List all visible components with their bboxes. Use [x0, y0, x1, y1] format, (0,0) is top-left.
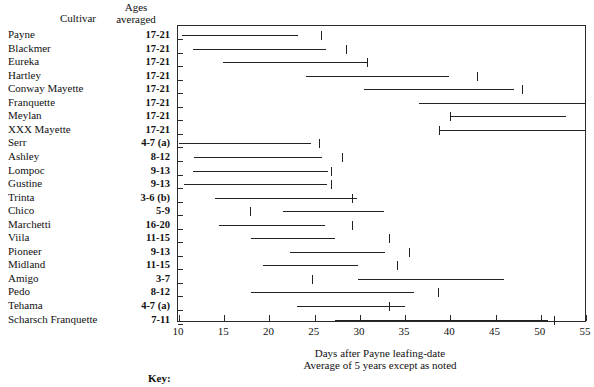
- range-bar: [419, 103, 585, 104]
- range-bar: [193, 171, 329, 172]
- y-axis-tick: [178, 215, 183, 216]
- row-label-ages: 16-20: [106, 219, 170, 230]
- x-axis-tick-label: 20: [253, 325, 283, 337]
- range-mark: [439, 126, 440, 135]
- range-mark: [585, 99, 586, 108]
- range-bar: [306, 76, 450, 77]
- range-bar: [335, 320, 548, 321]
- row-label-ages: 17-21: [106, 29, 170, 40]
- row-label-ages: 11-15: [106, 232, 170, 243]
- y-axis-tick: [178, 147, 183, 148]
- range-mark: [319, 139, 320, 148]
- x-axis-tick-label: 50: [525, 325, 555, 337]
- range-bar: [223, 62, 367, 63]
- y-axis-tick: [178, 161, 183, 162]
- range-mark: [346, 45, 347, 54]
- range-bar: [439, 130, 586, 131]
- range-mark: [352, 194, 353, 203]
- range-bar: [290, 252, 385, 253]
- range-bar: [182, 35, 299, 36]
- range-bar: [364, 89, 513, 90]
- range-bar: [179, 143, 311, 144]
- range-mark: [342, 153, 343, 162]
- row-label-ages: 4-7 (a): [106, 137, 170, 148]
- y-axis-tick: [178, 107, 183, 108]
- row-label-ages: 9-13: [106, 246, 170, 257]
- range-mark: [321, 31, 322, 40]
- row-label-ages: 17-21: [106, 43, 170, 54]
- y-axis-tick: [178, 269, 183, 270]
- range-bar: [450, 116, 566, 117]
- plot-area: [177, 25, 586, 322]
- y-axis-tick: [178, 66, 183, 67]
- column-header-ages-line2: averaged: [104, 13, 168, 25]
- row-label-ages: 17-21: [106, 97, 170, 108]
- y-axis-tick: [178, 120, 183, 121]
- y-axis-tick: [178, 39, 183, 40]
- range-mark: [522, 85, 523, 94]
- x-axis-tick: [179, 315, 180, 321]
- row-label-ages: 17-21: [106, 83, 170, 94]
- row-label-ages: 3-6 (b): [106, 192, 170, 203]
- y-axis-tick: [178, 242, 183, 243]
- range-bar: [215, 198, 357, 199]
- range-bar: [263, 265, 358, 266]
- range-bar: [219, 225, 325, 226]
- chart-page: Cultivar Ages averaged Payne17-21Blackme…: [0, 0, 594, 387]
- y-axis-tick: [178, 229, 183, 230]
- y-axis-tick: [178, 53, 183, 54]
- range-bar: [251, 238, 334, 239]
- row-label-ages: 11-15: [106, 259, 170, 270]
- range-mark: [438, 288, 439, 297]
- row-label-ages: 9-13: [106, 165, 170, 176]
- y-axis-tick: [178, 310, 183, 311]
- row-label-ages: 9-13: [106, 178, 170, 189]
- range-mark: [397, 261, 398, 270]
- x-axis-tick-label: 15: [208, 325, 238, 337]
- range-bar: [283, 211, 384, 212]
- row-label-ages: 3-7: [106, 273, 170, 284]
- y-axis-tick: [178, 175, 183, 176]
- range-mark: [450, 112, 451, 121]
- range-mark: [331, 180, 332, 189]
- x-axis-tick-label: 30: [344, 325, 374, 337]
- range-bar: [184, 184, 328, 185]
- y-axis-tick: [178, 283, 183, 284]
- y-axis-tick: [178, 134, 183, 135]
- y-axis-tick: [178, 256, 183, 257]
- y-axis-tick: [178, 93, 183, 94]
- row-label-ages: 5-9: [106, 205, 170, 216]
- row-label-ages: 4-7 (a): [106, 300, 170, 311]
- range-bar: [194, 157, 322, 158]
- x-axis-tick-label: 40: [434, 325, 464, 337]
- range-mark: [352, 221, 353, 230]
- range-mark: [389, 234, 390, 243]
- x-axis-tick-label: 25: [299, 325, 329, 337]
- row-label-ages: 17-21: [106, 56, 170, 67]
- range-mark: [477, 72, 478, 81]
- range-mark: [331, 167, 332, 176]
- range-mark: [554, 316, 555, 325]
- row-label-ages: 7-11: [106, 314, 170, 325]
- row-label-ages: 17-21: [106, 110, 170, 121]
- column-header-ages: Ages averaged: [104, 1, 168, 25]
- x-axis-subtitle: Average of 5 years except as noted: [200, 359, 560, 372]
- y-axis-tick: [178, 188, 183, 189]
- y-axis-tick: [178, 80, 183, 81]
- range-mark: [389, 302, 390, 311]
- range-mark: [409, 248, 410, 257]
- range-mark: [250, 207, 251, 216]
- range-mark: [367, 58, 368, 67]
- x-axis-tick: [224, 315, 225, 321]
- row-label-ages: 17-21: [106, 70, 170, 81]
- y-axis-tick: [178, 296, 183, 297]
- key-label: Key:: [148, 372, 171, 384]
- range-bar: [193, 49, 325, 50]
- range-bar: [251, 292, 414, 293]
- column-header-ages-line1: Ages: [104, 1, 168, 13]
- range-bar: [358, 279, 504, 280]
- x-axis-tick: [586, 315, 587, 321]
- x-axis-tick-label: 45: [480, 325, 510, 337]
- row-label-ages: 17-21: [106, 124, 170, 135]
- row-label-ages: 8-12: [106, 151, 170, 162]
